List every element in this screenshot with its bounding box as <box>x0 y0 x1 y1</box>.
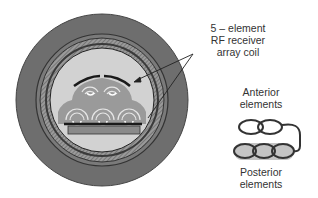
patient-table <box>68 126 140 134</box>
anterior-label: Anterior elements <box>226 86 296 110</box>
posterior-label-line: elements <box>226 178 296 190</box>
posterior-label-line: Posterior <box>226 166 296 178</box>
coil-label-line: 5 – element <box>196 22 280 34</box>
coil-label-line: array coil <box>196 46 280 58</box>
posterior-label: Posterior elements <box>226 166 296 190</box>
mri-coil-diagram: 5 – element RF receiver array coil Anter… <box>0 0 318 198</box>
anterior-label-line: Anterior <box>226 86 296 98</box>
coil-label: 5 – element RF receiver array coil <box>196 22 280 58</box>
coil-label-line: RF receiver <box>196 34 280 46</box>
anterior-label-line: elements <box>226 98 296 110</box>
coil-array-schematic <box>234 120 300 160</box>
